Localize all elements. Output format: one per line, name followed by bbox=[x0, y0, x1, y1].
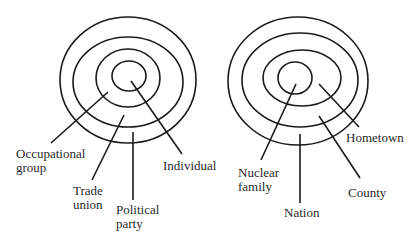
ring-3 bbox=[263, 50, 341, 106]
county-leader-line bbox=[319, 116, 360, 178]
ring-4 bbox=[278, 62, 312, 94]
right-concentric-diagram: NuclearfamilyNationCountyHometown bbox=[228, 17, 404, 220]
figure-svg: OccupationalgroupTradeunionPoliticalpart… bbox=[0, 0, 419, 245]
occupational-group-leader-line bbox=[51, 92, 108, 143]
ring-1 bbox=[60, 17, 196, 143]
ring-4 bbox=[112, 61, 146, 91]
hometown-leader-line bbox=[319, 84, 359, 127]
county-label: County bbox=[348, 185, 387, 200]
left-concentric-diagram: OccupationalgroupTradeunionPoliticalpart… bbox=[16, 17, 217, 231]
nuclear-family-label: Nuclearfamily bbox=[238, 165, 280, 194]
occupational-group-label: Occupationalgroup bbox=[16, 146, 86, 175]
individual-label: Individual bbox=[163, 158, 217, 173]
concentric-circles-figure: OccupationalgroupTradeunionPoliticalpart… bbox=[0, 0, 419, 245]
ring-3 bbox=[96, 49, 160, 107]
trade-union-label: Tradeunion bbox=[73, 183, 103, 212]
nation-label: Nation bbox=[284, 205, 320, 220]
nuclear-family-leader-line bbox=[261, 84, 296, 160]
ring-2 bbox=[73, 37, 183, 127]
hometown-label: Hometown bbox=[346, 130, 404, 145]
ring-1 bbox=[228, 17, 368, 145]
political-party-label: Politicalparty bbox=[116, 202, 160, 231]
